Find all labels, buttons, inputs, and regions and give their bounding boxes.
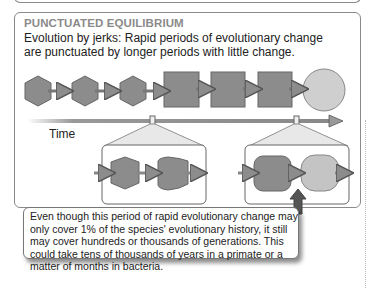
hexagon-stage-1 — [25, 76, 51, 106]
zoom-cone-2 — [249, 124, 348, 146]
hexagon-stage-3 — [120, 76, 146, 106]
callout-text: Even though this period of rapid evoluti… — [30, 210, 300, 273]
square-stage-2 — [211, 72, 245, 107]
zoom-cone-1 — [104, 124, 204, 146]
page-edge-divider — [365, 120, 366, 288]
inset-rounded-circle — [301, 155, 339, 191]
inset-hexagon — [111, 157, 139, 189]
circle-stage — [303, 69, 345, 111]
square-stage-3 — [258, 72, 292, 107]
time-axis-label: Time — [49, 127, 75, 141]
inset-rounded-square — [254, 156, 291, 191]
square-stage-1 — [164, 72, 199, 107]
hexagon-stage-2 — [72, 76, 98, 106]
